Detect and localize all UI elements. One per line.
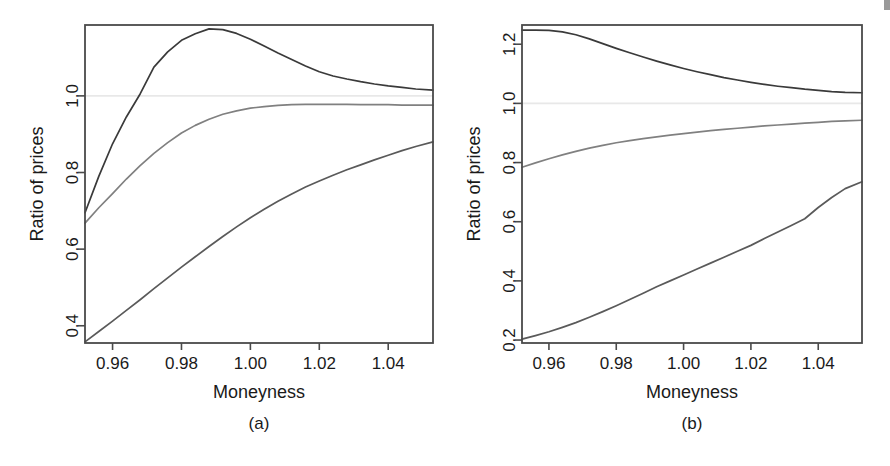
y-tick-label: 1.2 bbox=[500, 32, 519, 56]
series-line-middle-curve bbox=[522, 120, 862, 167]
y-tick-label: 0.2 bbox=[500, 328, 519, 352]
x-tick-label: 1.02 bbox=[303, 354, 336, 373]
y-axis-title: Ratio of prices bbox=[464, 126, 484, 241]
y-tick-label: 0.6 bbox=[63, 237, 82, 261]
plot-frame bbox=[85, 25, 433, 343]
x-tick-label: 0.96 bbox=[96, 354, 129, 373]
panel-caption: (b) bbox=[682, 414, 703, 433]
series-line-upper-curve bbox=[85, 29, 433, 213]
x-axis-title: Moneyness bbox=[646, 382, 738, 402]
panel-caption: (a) bbox=[249, 414, 270, 433]
x-tick-label: 1.00 bbox=[667, 354, 700, 373]
x-tick-label: 1.02 bbox=[734, 354, 767, 373]
chart-panel-a: 0.960.981.001.021.040.40.60.81.0Moneynes… bbox=[0, 0, 445, 466]
y-tick-label: 1.0 bbox=[63, 84, 82, 108]
series-line-middle-curve bbox=[85, 104, 433, 223]
x-tick-label: 0.96 bbox=[532, 354, 565, 373]
y-tick-label: 0.8 bbox=[63, 161, 82, 185]
x-tick-label: 1.00 bbox=[234, 354, 267, 373]
chart-panel-b: 0.960.981.001.021.040.20.40.60.81.01.2Mo… bbox=[445, 0, 890, 466]
x-tick-label: 0.98 bbox=[165, 354, 198, 373]
panel-a-plot: 0.960.981.001.021.040.40.60.81.0Moneynes… bbox=[0, 0, 445, 466]
y-tick-label: 1.0 bbox=[500, 92, 519, 116]
y-tick-label: 0.4 bbox=[63, 314, 82, 338]
y-tick-label: 0.4 bbox=[500, 269, 519, 293]
x-tick-label: 0.98 bbox=[600, 354, 633, 373]
x-axis-title: Moneyness bbox=[213, 382, 305, 402]
plot-frame bbox=[522, 25, 862, 343]
page-edge-mark bbox=[884, 0, 890, 10]
y-tick-label: 0.6 bbox=[500, 210, 519, 234]
series-line-lower-curve bbox=[85, 142, 433, 342]
series-line-lower-curve bbox=[522, 182, 862, 339]
figure-page: 0.960.981.001.021.040.40.60.81.0Moneynes… bbox=[0, 0, 890, 466]
x-tick-label: 1.04 bbox=[802, 354, 835, 373]
panel-b-plot: 0.960.981.001.021.040.20.40.60.81.01.2Mo… bbox=[445, 0, 890, 466]
y-tick-label: 0.8 bbox=[500, 151, 519, 175]
series-line-upper-curve bbox=[522, 30, 862, 93]
x-tick-label: 1.04 bbox=[372, 354, 405, 373]
y-axis-title: Ratio of prices bbox=[27, 126, 47, 241]
